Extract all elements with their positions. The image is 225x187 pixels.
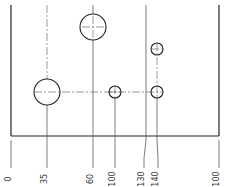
- ordinate-label-100: 100: [109, 171, 117, 186]
- ordinate-label-35: 35: [41, 174, 49, 184]
- holes: [34, 14, 163, 105]
- ordinate-label-140: 140: [152, 171, 160, 186]
- ordinate-label-0: 0: [5, 176, 13, 181]
- ordinate-label-60: 60: [87, 174, 95, 184]
- technical-drawing: [0, 0, 225, 187]
- ordinate-label-end: 100: [213, 171, 221, 186]
- center-lines: [34, 5, 163, 98]
- ordinate-label-130: 130: [138, 171, 146, 186]
